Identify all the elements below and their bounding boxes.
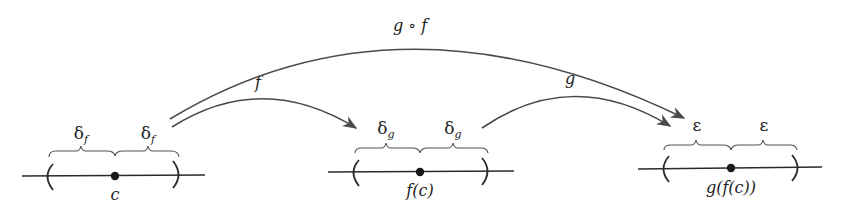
radius-left: δg <box>377 118 394 141</box>
radius-right: δg <box>444 118 461 141</box>
composition-diagram: f g g ∘ f δf δf c δg δg f(c) ε ε <box>0 0 841 217</box>
left-paren <box>354 160 360 186</box>
radius-left: ε <box>693 115 702 135</box>
arrow-composite: g ∘ f <box>170 16 684 119</box>
arrow-composite-label: g ∘ f <box>393 16 430 35</box>
point-c <box>111 172 119 180</box>
brace <box>49 146 179 157</box>
point-label-fc: f(c) <box>405 181 433 200</box>
number-line-middle: δg δg f(c) <box>328 118 514 200</box>
radius-right: ε <box>760 115 769 135</box>
brace <box>664 140 797 150</box>
brace <box>355 143 488 153</box>
point-gfc <box>727 164 735 172</box>
point-fc <box>416 168 424 176</box>
arrow-f: f <box>172 73 356 128</box>
point-label-gfc: g(f(c)) <box>706 178 756 197</box>
point-label-c: c <box>111 185 120 204</box>
radius-right: δf <box>141 123 157 146</box>
number-line-domain: δf δf c <box>22 123 205 204</box>
number-line-range: ε ε g(f(c)) <box>638 115 822 197</box>
left-paren <box>48 164 54 190</box>
radius-left: δf <box>74 123 90 146</box>
